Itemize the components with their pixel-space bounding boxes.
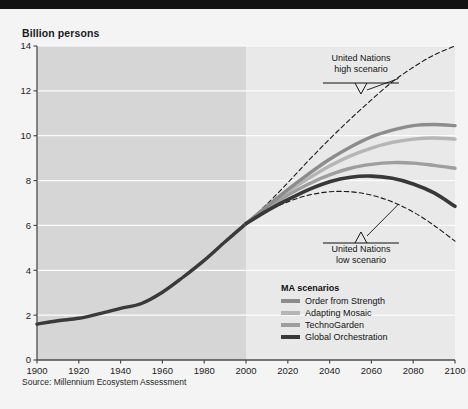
- legend-item: Global Orchestration: [281, 331, 399, 343]
- y-tick-label: 12: [20, 85, 31, 96]
- population-line-chart: 0246810121419001920194019601980200020202…: [0, 0, 468, 409]
- legend-swatch-icon: [281, 311, 300, 315]
- legend-item: Adapting Mosaic: [281, 307, 399, 319]
- x-tick-label: 1900: [26, 365, 47, 376]
- y-tick-label: 0: [26, 354, 31, 365]
- y-tick-label: 10: [20, 130, 31, 141]
- legend-item: TechnoGarden: [281, 319, 399, 331]
- chart-figure: Billion persons 024681012141900192019401…: [0, 0, 468, 409]
- y-tick-label: 8: [26, 175, 31, 186]
- x-tick-label: 2100: [444, 365, 465, 376]
- historical-band: [37, 46, 246, 360]
- x-tick-label: 2080: [403, 365, 424, 376]
- y-tick-label: 6: [26, 220, 31, 231]
- legend-item-label: Global Orchestration: [305, 332, 388, 343]
- legend-swatch-icon: [281, 335, 300, 339]
- x-tick-label: 1960: [152, 365, 173, 376]
- x-tick-label: 1920: [68, 365, 89, 376]
- legend-swatch-icon: [281, 299, 300, 303]
- annotation-line-2: low scenario: [336, 255, 386, 265]
- y-tick-label: 14: [20, 40, 31, 51]
- x-tick-label: 1940: [110, 365, 131, 376]
- source-note: Source: Millennium Ecosystem Assessment: [22, 377, 186, 387]
- annotation-line-1: United Nations: [331, 53, 391, 63]
- annotation-line-1: United Nations: [331, 244, 391, 254]
- x-tick-label: 2020: [277, 365, 298, 376]
- legend-title: MA scenarios: [281, 283, 399, 293]
- y-tick-label: 2: [26, 310, 31, 321]
- legend-item-label: TechnoGarden: [305, 320, 364, 331]
- x-tick-label: 2060: [361, 365, 382, 376]
- x-tick-label: 1980: [194, 365, 215, 376]
- legend-swatch-icon: [281, 323, 300, 327]
- x-tick-label: 2040: [319, 365, 340, 376]
- legend-item-label: Order from Strength: [305, 296, 385, 307]
- annotation-line-2: high scenario: [334, 64, 388, 74]
- y-tick-label: 4: [26, 265, 31, 276]
- x-tick-label: 2000: [235, 365, 256, 376]
- chart-legend: MA scenarios Order from StrengthAdapting…: [281, 283, 399, 343]
- legend-item-label: Adapting Mosaic: [305, 308, 372, 319]
- legend-item: Order from Strength: [281, 295, 399, 307]
- legend-items: Order from StrengthAdapting MosaicTechno…: [281, 295, 399, 343]
